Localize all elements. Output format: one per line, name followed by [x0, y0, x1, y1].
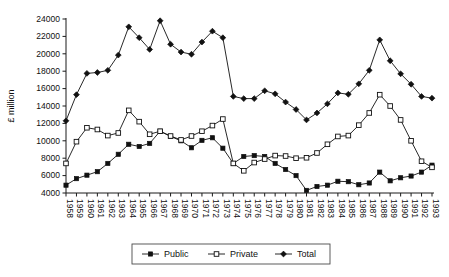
data-point-marker [429, 95, 435, 101]
data-point-marker [241, 169, 246, 174]
series-total [63, 18, 435, 124]
data-point-marker [95, 170, 99, 174]
data-point-marker [325, 183, 329, 187]
data-point-marker [85, 125, 90, 130]
x-axis-tick-label: 1980 [295, 199, 305, 218]
data-point-marker [419, 159, 424, 164]
y-axis-tick-label: 16000 [36, 83, 60, 93]
data-point-marker [409, 174, 413, 178]
legend-label: Private [230, 249, 258, 259]
data-point-marker [367, 181, 371, 185]
data-point-marker [200, 129, 205, 134]
data-point-marker [273, 153, 278, 158]
y-axis-tick-label: 14000 [36, 101, 60, 111]
series-private [64, 92, 435, 173]
x-axis-tick-label: 1973 [222, 199, 232, 218]
data-point-marker [158, 129, 163, 134]
data-point-marker [147, 132, 152, 137]
x-axis-tick-label: 1986 [358, 199, 368, 218]
data-point-marker [242, 154, 246, 158]
data-point-marker [388, 104, 393, 109]
data-point-marker [157, 18, 163, 24]
legend-marker-public [148, 252, 152, 256]
x-axis-tick-label: 1961 [96, 199, 106, 218]
data-point-marker [115, 52, 121, 58]
data-point-marker [252, 160, 257, 165]
y-axis-tick-label: 6000 [41, 170, 60, 180]
data-point-marker [74, 92, 80, 98]
x-axis-tick-label: 1979 [285, 199, 295, 218]
data-point-marker [74, 139, 79, 144]
x-axis-tick-label: 1982 [316, 199, 326, 218]
data-point-marker [127, 142, 131, 146]
plot-area: 4000600080001000012000140001600018000200… [6, 14, 441, 264]
data-point-marker [200, 138, 204, 142]
line-chart: 4000600080001000012000140001600018000200… [0, 0, 449, 277]
chart-legend: PublicPrivateTotal [132, 244, 330, 264]
series-line-total [66, 21, 432, 121]
data-point-marker [64, 183, 68, 187]
data-point-marker [179, 138, 184, 143]
data-point-marker [221, 146, 225, 150]
x-axis-tick-label: 1993 [431, 199, 441, 218]
data-point-marker [63, 118, 69, 124]
series-line-public [66, 131, 432, 190]
x-axis-tick-label: 1987 [368, 199, 378, 218]
data-point-marker [430, 165, 435, 170]
data-point-marker [388, 179, 392, 183]
data-point-marker [241, 96, 247, 102]
data-point-marker [95, 127, 100, 132]
x-axis: 1958195919601961196219631964196519661967… [65, 193, 441, 218]
data-point-marker [273, 161, 277, 165]
x-axis-tick-label: 1965 [138, 199, 148, 218]
data-point-marker [126, 108, 131, 113]
y-axis-tick-label: 20000 [36, 49, 60, 59]
legend-marker-private [214, 252, 219, 257]
x-axis-tick-label: 1975 [243, 199, 253, 218]
x-axis-tick-label: 1992 [420, 199, 430, 218]
x-axis-tick-label: 1974 [232, 199, 242, 218]
data-point-marker [220, 35, 226, 41]
y-axis: 4000600080001000012000140001600018000200… [36, 14, 66, 198]
data-point-marker [85, 173, 89, 177]
data-point-marker [84, 70, 90, 76]
x-axis-tick-label: 1968 [170, 199, 180, 218]
y-axis-title: £ million [6, 89, 16, 122]
x-axis-tick-label: 1967 [159, 199, 169, 218]
data-point-marker [189, 146, 193, 150]
data-point-marker [137, 144, 141, 148]
data-point-marker [210, 123, 215, 128]
x-axis-tick-label: 1964 [128, 199, 138, 218]
data-point-marker [221, 117, 226, 122]
x-axis-tick-label: 1978 [274, 199, 284, 218]
x-axis-tick-label: 1962 [107, 199, 117, 218]
x-axis-tick-label: 1981 [305, 199, 315, 218]
x-axis-tick-label: 1991 [410, 199, 420, 218]
x-axis-tick-label: 1958 [65, 199, 75, 218]
data-point-marker [304, 188, 308, 192]
data-point-marker [210, 136, 214, 140]
data-point-marker [325, 142, 330, 147]
data-point-marker [398, 118, 403, 123]
y-axis-tick-label: 10000 [36, 136, 60, 146]
chart-container: 4000600080001000012000140001600018000200… [0, 0, 449, 277]
x-axis-tick-label: 1960 [86, 199, 96, 218]
legend-label: Public [164, 249, 189, 259]
series-public [64, 129, 434, 192]
data-point-marker [148, 141, 152, 145]
data-point-marker [346, 180, 350, 184]
data-point-marker [399, 176, 403, 180]
data-point-marker [357, 123, 362, 128]
data-point-marker [294, 174, 298, 178]
x-axis-tick-label: 1990 [400, 199, 410, 218]
data-point-marker [189, 134, 194, 139]
data-point-marker [74, 177, 78, 181]
x-axis-tick-label: 1969 [180, 199, 190, 218]
data-point-marker [94, 70, 100, 76]
x-axis-tick-label: 1963 [117, 199, 127, 218]
x-axis-tick-label: 1971 [201, 199, 211, 218]
data-point-marker [367, 111, 372, 116]
x-axis-tick-label: 1988 [379, 199, 389, 218]
data-point-marker [230, 94, 236, 100]
data-series-group [63, 18, 435, 193]
